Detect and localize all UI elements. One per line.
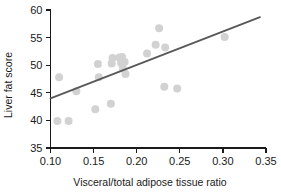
data-point <box>121 58 129 66</box>
data-point <box>155 24 163 32</box>
data-point <box>152 41 160 49</box>
scatter-plot-figure: 354045505560 0.100.150.200.250.300.35 Vi… <box>0 0 281 192</box>
y-tick-label: 60 <box>30 4 42 16</box>
y-tick-label: 45 <box>30 87 42 99</box>
data-point <box>173 84 181 92</box>
x-tick-label: 0.35 <box>255 155 276 167</box>
y-tick-label: 40 <box>30 114 42 126</box>
data-point <box>107 100 115 108</box>
x-tick-label: 0.25 <box>169 155 190 167</box>
data-point <box>161 44 169 52</box>
x-tick-label: 0.30 <box>212 155 233 167</box>
data-point <box>55 73 63 81</box>
y-tick-label: 35 <box>30 142 42 154</box>
data-point <box>143 50 151 58</box>
y-tick-label: 55 <box>30 32 42 44</box>
data-point <box>109 54 117 62</box>
data-point <box>53 117 61 125</box>
data-point <box>160 83 168 91</box>
data-point <box>94 60 102 68</box>
x-tick-label: 0.15 <box>83 155 104 167</box>
y-axis-label: Liver fat score <box>2 52 14 118</box>
chart-canvas: 354045505560 0.100.150.200.250.300.35 Vi… <box>0 0 281 192</box>
data-point <box>65 117 73 125</box>
y-tick-label: 50 <box>30 59 42 71</box>
data-point <box>91 105 99 113</box>
x-tick-label: 0.20 <box>126 155 147 167</box>
x-axis-label: Visceral/total adipose tissue ratio <box>73 176 226 188</box>
data-point <box>221 33 229 41</box>
x-tick-label: 0.10 <box>40 155 61 167</box>
